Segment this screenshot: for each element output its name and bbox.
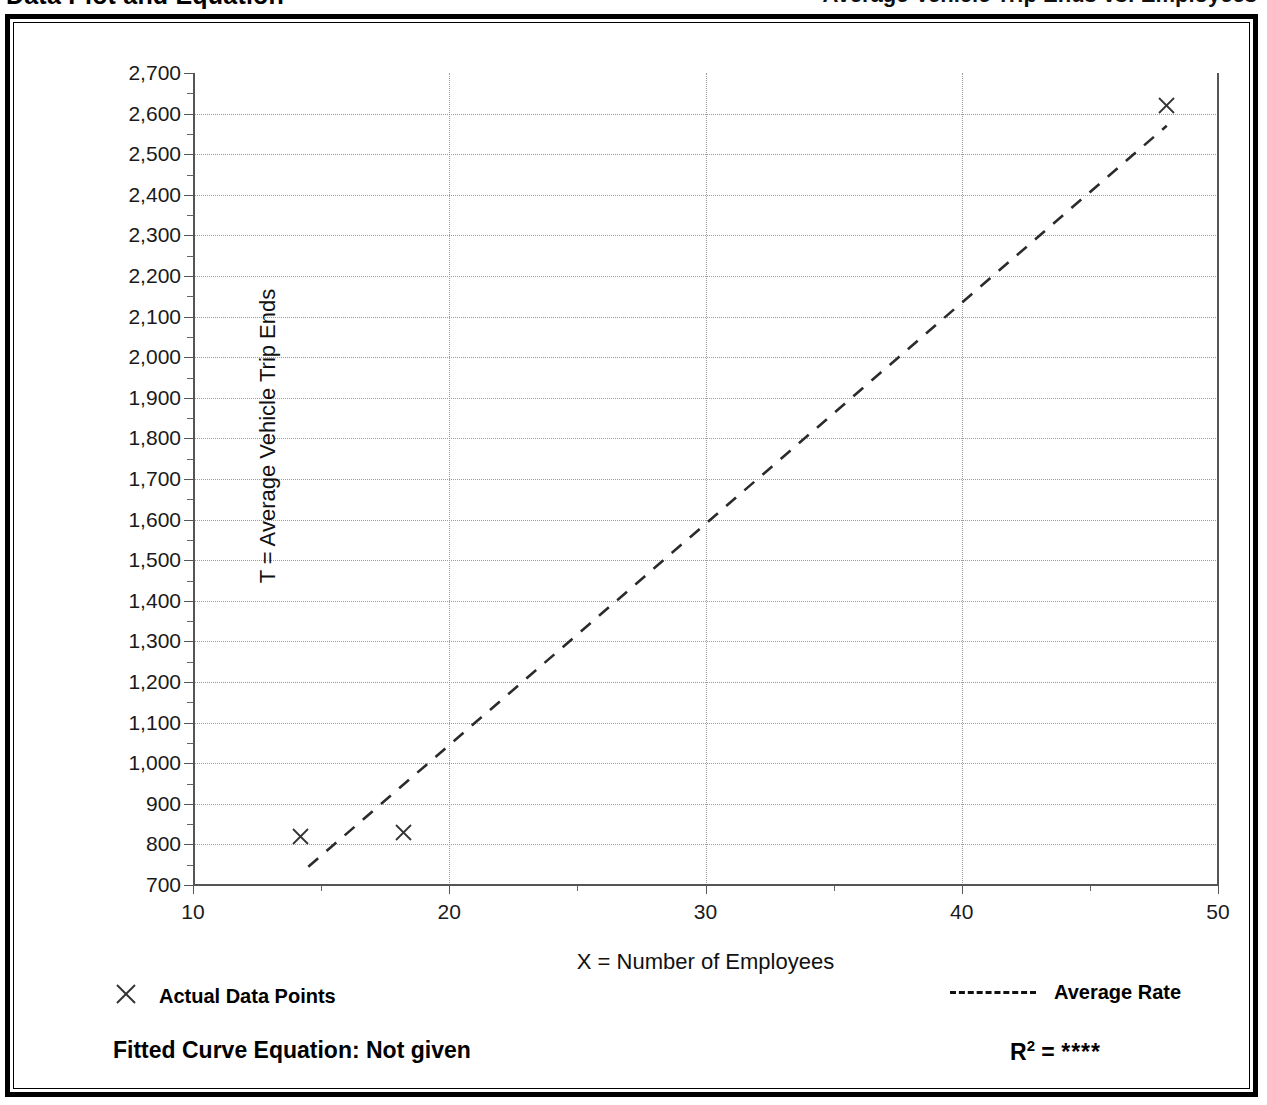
chart-figure: 7008009001,0001,1001,2001,3001,4001,5001… [10, 19, 1263, 1102]
y-tick-label: 2,200 [61, 265, 181, 286]
x-tick-major [706, 884, 707, 894]
legend-label-actual-data-points: Actual Data Points [159, 985, 336, 1008]
y-tick-label: 900 [61, 793, 181, 814]
gridline-vertical [706, 73, 707, 885]
y-tick-major [184, 763, 193, 764]
page-header-strip: Data Plot and Equation Average Vehicle T… [0, 0, 1267, 13]
r-squared-equals: = [1035, 1039, 1061, 1065]
page-title: Data Plot and Equation [6, 0, 284, 10]
data-point-x-marker [394, 823, 413, 842]
x-tick-major [962, 884, 963, 894]
x-axis-title: X = Number of Employees [193, 949, 1218, 975]
y-tick-label: 2,600 [61, 103, 181, 124]
plot-area: 7008009001,0001,1001,2001,3001,4001,5001… [193, 73, 1218, 885]
y-tick-label: 1,800 [61, 427, 181, 448]
y-tick-label: 2,500 [61, 143, 181, 164]
y-tick-label: 1,600 [61, 509, 181, 530]
y-tick-major [184, 682, 193, 683]
gridline-vertical [962, 73, 963, 885]
y-tick-major [184, 804, 193, 805]
y-tick-label: 1,300 [61, 630, 181, 651]
y-tick-major [184, 317, 193, 318]
data-point-x-marker [1157, 96, 1176, 115]
x-tick-major [1218, 884, 1219, 894]
y-tick-label: 1,900 [61, 387, 181, 408]
y-tick-label: 1,400 [61, 590, 181, 611]
x-tick-major [449, 884, 450, 894]
x-tick-major [193, 884, 194, 894]
y-tick-label: 1,200 [61, 671, 181, 692]
x-tick-label: 20 [409, 901, 489, 922]
x-axis-line [193, 884, 1218, 886]
y-tick-major [184, 560, 193, 561]
y-tick-major [184, 479, 193, 480]
y-tick-major [184, 195, 193, 196]
y-tick-major [184, 520, 193, 521]
r-squared-stars: **** [1061, 1039, 1101, 1065]
x-marker-icon [113, 981, 139, 1011]
legend-item-actual-data-points: Actual Data Points [113, 981, 336, 1011]
gridline-vertical [449, 73, 450, 885]
y-tick-major [184, 885, 193, 886]
y-tick-major [184, 601, 193, 602]
y-axis-right-line [1217, 73, 1219, 885]
y-tick-label: 800 [61, 833, 181, 854]
chart-legend: Actual Data Points Average Rate [10, 981, 1263, 1021]
y-tick-label: 2,000 [61, 346, 181, 367]
y-axis-line [193, 73, 195, 885]
y-tick-major [184, 723, 193, 724]
y-tick-major [184, 398, 193, 399]
legend-item-average-rate: Average Rate [950, 981, 1181, 1004]
x-tick-label: 10 [153, 901, 233, 922]
y-tick-label: 2,100 [61, 306, 181, 327]
legend-label-average-rate: Average Rate [1054, 981, 1181, 1004]
y-tick-label: 2,700 [61, 62, 181, 83]
y-tick-label: 1,100 [61, 712, 181, 733]
y-tick-major [184, 641, 193, 642]
fitted-curve-equation: Fitted Curve Equation: Not given [113, 1037, 471, 1064]
y-tick-label: 1,700 [61, 468, 181, 489]
x-tick-label: 30 [666, 901, 746, 922]
r-squared-exponent: 2 [1027, 1037, 1035, 1054]
r-squared-symbol: R [1010, 1039, 1027, 1065]
chart-frame: 7008009001,0001,1001,2001,3001,4001,5001… [5, 14, 1258, 1097]
equation-row: Fitted Curve Equation: Not given R2 = **… [10, 1037, 1263, 1081]
x-tick-label: 40 [922, 901, 1002, 922]
y-tick-label: 2,300 [61, 224, 181, 245]
data-point-x-marker [291, 827, 310, 846]
x-tick-label: 50 [1178, 901, 1258, 922]
y-tick-label: 700 [61, 874, 181, 895]
y-tick-major [184, 235, 193, 236]
y-axis-title: T = Average Vehicle Trip Ends [255, 236, 281, 636]
y-tick-major [184, 357, 193, 358]
y-tick-major [184, 114, 193, 115]
y-tick-label: 1,000 [61, 752, 181, 773]
y-tick-major [184, 276, 193, 277]
dashed-line-icon [950, 991, 1036, 994]
y-tick-major [184, 438, 193, 439]
y-tick-label: 1,500 [61, 549, 181, 570]
y-tick-label: 2,400 [61, 184, 181, 205]
page-header-right-text: Average Vehicle Trip Ends vs: Employees [823, 0, 1258, 8]
y-tick-major [184, 844, 193, 845]
y-tick-major [184, 154, 193, 155]
y-tick-major [184, 73, 193, 74]
r-squared-value: R2 = **** [1010, 1037, 1101, 1066]
